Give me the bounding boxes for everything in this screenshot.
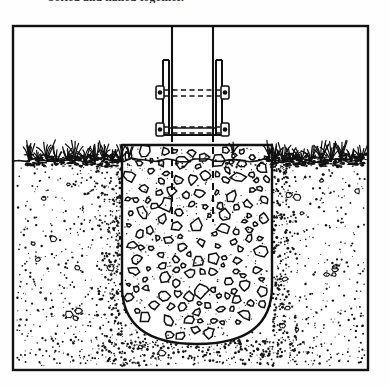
figure-page: bolted and nailed together. xyxy=(0,0,390,387)
figure-caption: bolted and nailed together. xyxy=(48,0,348,3)
post-footing-figure xyxy=(11,24,370,372)
cross-section-drawing xyxy=(11,24,370,372)
wood-post xyxy=(172,24,213,136)
concrete-footing xyxy=(122,145,272,344)
